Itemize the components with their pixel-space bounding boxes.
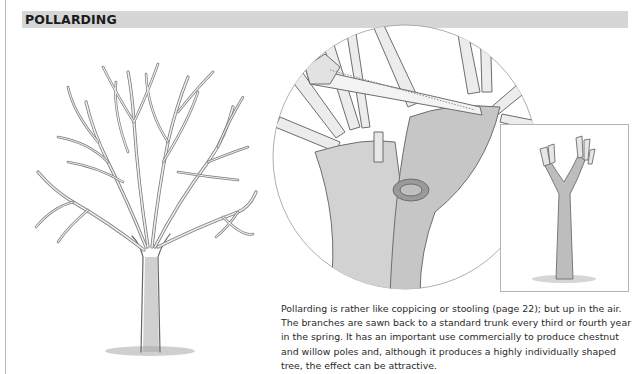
page-margin-rule — [5, 0, 6, 374]
pollarded-tree-illustration — [28, 52, 258, 362]
pollarded-trunk-inset-illustration — [500, 124, 628, 290]
caption-paragraph: Pollarding is rather like coppicing or s… — [281, 302, 631, 373]
section-title: POLLARDING — [25, 11, 117, 28]
